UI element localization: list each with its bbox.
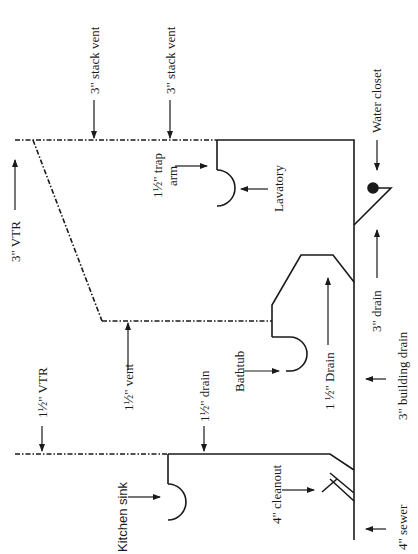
label-kitchen-sink: Kitchen sink	[116, 482, 129, 552]
label-trap-arm-2: arm	[166, 166, 179, 186]
kitchen-branch	[168, 454, 354, 470]
label-15-drain-b: 1½" drain	[198, 370, 211, 422]
plumbing-diagram	[0, 0, 418, 554]
label-building-drain: 3" building drain	[396, 332, 409, 420]
label-vtr-3: 3" VTR	[9, 221, 22, 262]
bathtub-trap	[272, 337, 307, 371]
label-15-vent: 1½" vent	[122, 364, 135, 411]
label-bathtub: Bathtub	[233, 351, 246, 392]
label-lavatory: Lavatory	[272, 165, 285, 212]
label-stack-vent-1: 3" stack vent	[88, 27, 101, 94]
label-cleanout: 4" cleanout	[270, 465, 283, 524]
kitchen-trap	[168, 484, 186, 520]
label-water-closet: Water closet	[370, 69, 383, 133]
label-trap-arm: 1½" trap	[151, 153, 164, 198]
slanted-vent-line	[33, 140, 102, 321]
label-sewer: 4" sewer	[396, 505, 409, 550]
cleanout	[322, 479, 337, 492]
lavatory-trap	[217, 170, 235, 206]
label-stack-vent-2: 3" stack vent	[164, 27, 177, 94]
label-3-drain: 3" drain	[370, 290, 383, 332]
label-15-vtr: 1½" VTR	[36, 367, 49, 418]
bathtub-branch	[272, 255, 354, 337]
label-15-drain: 1 ½" Drain	[323, 352, 336, 410]
